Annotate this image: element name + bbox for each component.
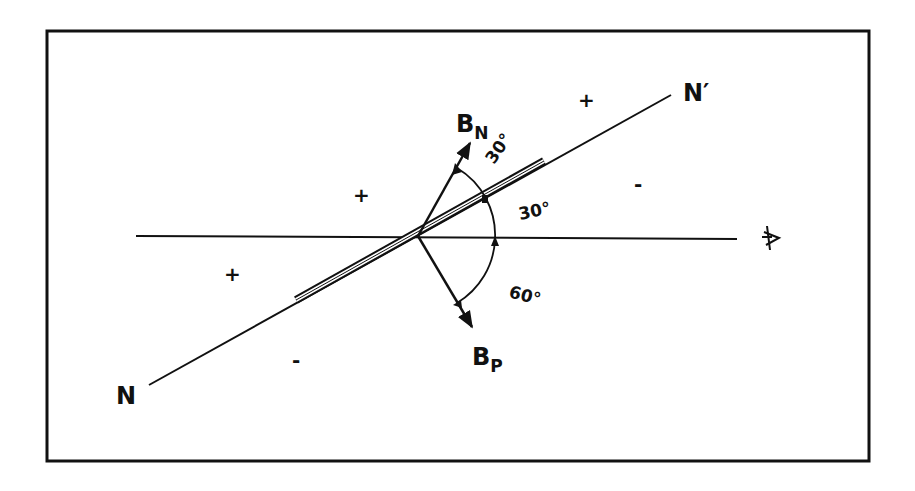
- label-n-prime: N′: [683, 79, 709, 107]
- eye-icon: [762, 226, 779, 250]
- diagram-canvas: N N′ BN BP 30° 30° 60° + + - + -: [0, 0, 915, 491]
- sign-left: +: [224, 262, 241, 286]
- arc-tick-axis: [482, 195, 488, 203]
- sign-upper-left: +: [353, 183, 370, 207]
- b-p-vector: [418, 236, 472, 327]
- angle-label-horizontal-bp: 60°: [507, 282, 543, 310]
- frame-border: [47, 31, 869, 461]
- label-b-n: BN: [456, 110, 489, 143]
- label-n: N: [116, 382, 136, 410]
- label-b-p: BP: [472, 343, 503, 376]
- angle-label-axis-horizontal: 30°: [517, 198, 553, 224]
- horizontal-axis: [136, 236, 737, 239]
- sign-upper-right: +: [578, 88, 595, 112]
- sign-lower: -: [292, 348, 300, 372]
- sign-right: -: [634, 172, 642, 196]
